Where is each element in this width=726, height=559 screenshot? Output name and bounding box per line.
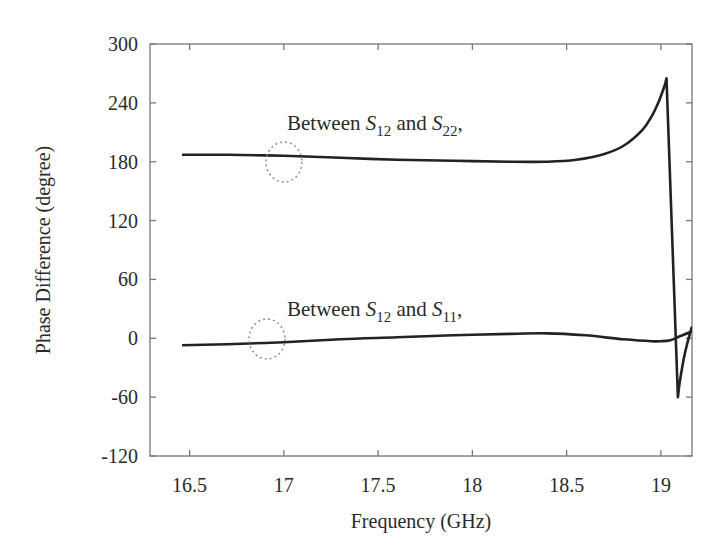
y-tick-label: 60 bbox=[118, 268, 138, 290]
annotation-lower: Between S12 and S11, bbox=[287, 297, 462, 325]
x-tick-label: 17.5 bbox=[361, 474, 396, 496]
x-tick-label: 18 bbox=[462, 474, 482, 496]
y-tick-label: -120 bbox=[101, 445, 138, 467]
annotation-upper: Between S12 and S22, bbox=[287, 111, 463, 139]
plot-border bbox=[150, 44, 692, 456]
y-tick-label: 240 bbox=[108, 92, 138, 114]
phase-difference-chart: -120-60060120180240300 16.51717.51818.51… bbox=[0, 0, 726, 559]
annotation-circles bbox=[249, 142, 302, 359]
x-tick-label: 16.5 bbox=[172, 474, 207, 496]
y-tick-label: 180 bbox=[108, 151, 138, 173]
x-tick-label: 18.5 bbox=[549, 474, 584, 496]
y-tick-label: 300 bbox=[108, 33, 138, 55]
y-axis-ticks: -120-60060120180240300 bbox=[101, 33, 692, 467]
x-axis-title: Frequency (GHz) bbox=[351, 510, 492, 533]
plot-frame bbox=[150, 44, 692, 456]
y-axis-title: Phase Difference (degree) bbox=[32, 146, 55, 354]
x-tick-label: 17 bbox=[274, 474, 294, 496]
series-s12-s11-line bbox=[182, 331, 692, 345]
y-tick-label: -60 bbox=[111, 386, 138, 408]
y-tick-label: 120 bbox=[108, 210, 138, 232]
lower-annotation-circle bbox=[249, 319, 285, 359]
y-tick-label: 0 bbox=[128, 327, 138, 349]
upper-annotation-circle bbox=[266, 142, 302, 182]
x-tick-label: 19 bbox=[651, 474, 671, 496]
